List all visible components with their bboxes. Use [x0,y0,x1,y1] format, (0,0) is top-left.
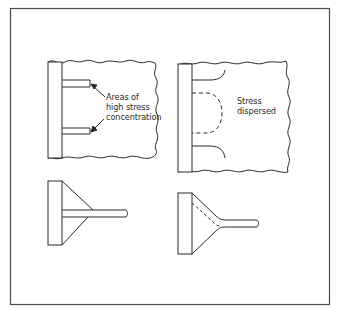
panel-bottom-left [48,181,128,245]
label-line: high stress [106,102,161,112]
lower-stiffener [62,128,90,134]
upper-radius [192,70,225,80]
upper-stiffener [62,80,90,87]
label-line: Areas of [106,92,161,102]
panel-top-right [178,61,290,172]
stem [62,210,128,217]
label-line: Stress [237,96,276,106]
figure-caption [12,309,332,314]
gusset-lower [62,217,88,245]
base-plate [48,181,62,245]
base-plate [178,193,192,254]
high-stress-label: Areas of high stress concentration [106,92,161,122]
lower-radius [192,146,225,158]
dispersed-stress-outline [192,93,222,133]
vertical-plate [48,62,62,158]
gusset-upper [62,181,93,210]
label-line: concentration [106,112,161,122]
vertical-plate [178,64,192,172]
stress-dispersed-label: Stress dispersed [237,96,276,116]
stress-diagram [0,0,338,314]
curved-gusset-upper [192,193,259,254]
panel-bottom-right [178,193,259,254]
label-line: dispersed [237,106,276,116]
wavy-boundary-right [178,61,290,172]
